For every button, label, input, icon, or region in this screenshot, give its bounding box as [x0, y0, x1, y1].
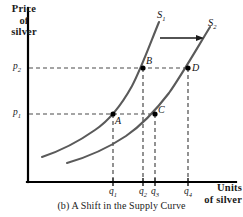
- data-points: [110, 65, 190, 116]
- curve-label-s2: S2: [208, 17, 217, 30]
- point-label-a: A: [115, 115, 121, 126]
- y-axis-title: Price of silver: [2, 3, 46, 38]
- point-b-marker: [140, 65, 145, 70]
- curve-label-s1: S1: [157, 9, 166, 22]
- guide-lines: [29, 68, 188, 181]
- point-d-marker: [185, 65, 190, 70]
- y-tick-label-p2: p2: [7, 61, 27, 73]
- figure-caption: (b) A Shift in the Supply Curve: [0, 200, 243, 211]
- point-c-marker: [152, 111, 157, 116]
- shift-arrow-icon: [160, 35, 204, 41]
- x-tick-label-q1: q1: [103, 186, 123, 198]
- point-label-c: C: [158, 104, 165, 115]
- y-tick-label-p1: p1: [7, 107, 27, 119]
- x-tick-label-q3: q3: [145, 186, 165, 198]
- supply-curve-s1: [42, 22, 159, 157]
- point-label-b: B: [146, 55, 152, 66]
- supply-curve-figure: Price of silver Units of silver p2 p1 q1…: [0, 0, 243, 217]
- point-label-d: D: [192, 62, 199, 73]
- x-tick-label-q4: q4: [178, 186, 198, 198]
- supply-curve-s2: [67, 27, 210, 163]
